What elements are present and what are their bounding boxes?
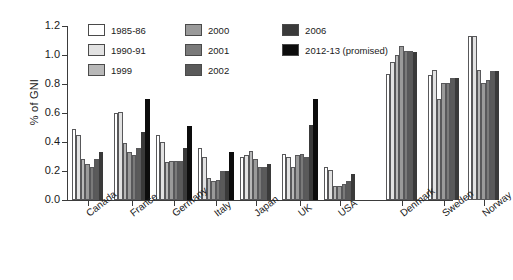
x-axis-line bbox=[67, 200, 453, 201]
y-tick-mark bbox=[62, 55, 68, 56]
bar-group bbox=[72, 26, 103, 200]
bar bbox=[413, 52, 417, 200]
bar bbox=[229, 152, 233, 200]
bar-group bbox=[198, 26, 234, 200]
bar-group bbox=[386, 26, 417, 200]
y-tick-label: 0.6 bbox=[26, 107, 60, 118]
y-tick-label: 0.8 bbox=[26, 78, 60, 89]
y-axis-label: % of GNI bbox=[28, 62, 40, 142]
y-tick-mark bbox=[62, 84, 68, 85]
plot-area bbox=[68, 26, 453, 200]
bar-group bbox=[156, 26, 192, 200]
y-tick-label: 0.4 bbox=[26, 136, 60, 147]
bar bbox=[351, 174, 355, 200]
x-tick-label: UK bbox=[296, 201, 314, 218]
y-tick-mark bbox=[62, 26, 68, 27]
y-tick-label: 1.2 bbox=[26, 20, 60, 31]
y-tick-label: 1.0 bbox=[26, 49, 60, 60]
y-tick-mark bbox=[62, 171, 68, 172]
bar-group bbox=[240, 26, 271, 200]
bar-group bbox=[428, 26, 459, 200]
bar bbox=[187, 126, 191, 200]
bar-group bbox=[282, 26, 318, 200]
y-tick-mark bbox=[62, 113, 68, 114]
bar-group bbox=[324, 26, 355, 200]
bar bbox=[145, 99, 149, 201]
bar bbox=[99, 152, 103, 200]
y-tick-label: 0.2 bbox=[26, 165, 60, 176]
y-tick-mark bbox=[62, 142, 68, 143]
bar-group bbox=[468, 26, 499, 200]
bar-group bbox=[114, 26, 150, 200]
y-tick-mark bbox=[62, 200, 68, 201]
bar bbox=[455, 78, 459, 200]
y-tick-label: 0.0 bbox=[26, 194, 60, 205]
bar bbox=[313, 99, 317, 201]
bar bbox=[495, 71, 499, 200]
